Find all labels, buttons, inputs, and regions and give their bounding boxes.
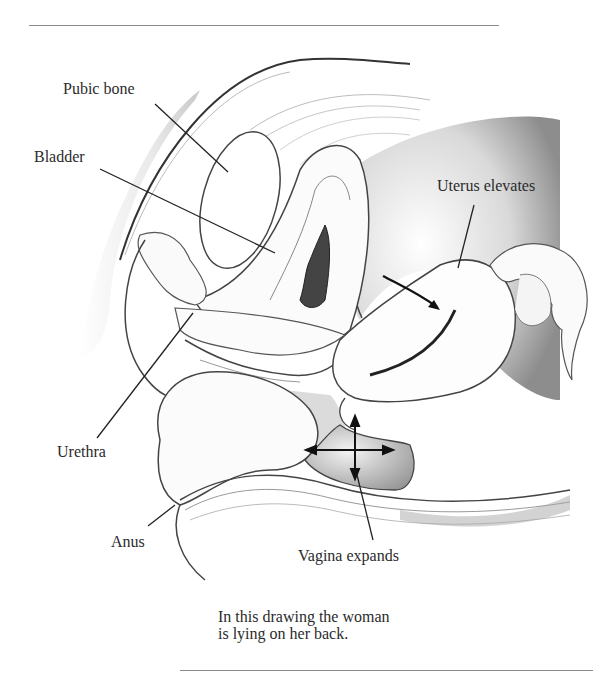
label-bladder: Bladder xyxy=(34,148,85,166)
label-vagina-expands: Vagina expands xyxy=(298,547,399,565)
label-pubic-bone: Pubic bone xyxy=(63,80,135,98)
label-uterus-elevates: Uterus elevates xyxy=(437,177,535,195)
label-anus: Anus xyxy=(111,533,145,551)
label-urethra: Urethra xyxy=(57,443,106,461)
caption-line-1: In this drawing the woman xyxy=(218,608,390,625)
leader-anus xyxy=(148,505,175,526)
figure-caption: In this drawing the woman is lying on he… xyxy=(218,608,390,642)
caption-line-2: is lying on her back. xyxy=(218,625,390,642)
bottom-rule xyxy=(180,670,593,671)
anatomical-illustration xyxy=(0,0,614,683)
